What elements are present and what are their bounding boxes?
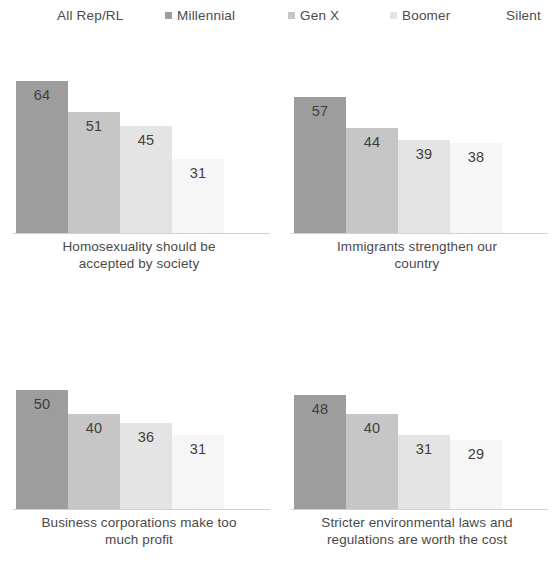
bar-value-label: 31 [398,441,450,457]
bar-value-label: 40 [68,420,120,436]
legend-item-gen-x: Gen X [288,8,339,23]
chart-panel-environmental-laws: 3748403129 Stricter environmental laws a… [278,322,556,563]
bar-value-label: 57 [294,103,346,119]
legend-label-all-rep-rl: All Rep/RL [57,8,124,23]
bar-value-label: 45 [120,132,172,148]
panel-caption-line2: country [395,256,440,271]
panel-caption-line2: much profit [105,532,173,547]
plot-area: 4457443938 [286,46,548,234]
legend-item-boomer: Boomer [390,8,450,23]
x-axis-line [13,509,270,510]
legend-swatch-icon-millennial [165,12,172,19]
plot-area: 3748403129 [286,322,548,510]
bar-value-label: 36 [120,429,172,445]
x-axis-line [13,233,270,234]
legend-swatch-icon-boomer [390,12,397,19]
panel-caption-line2: accepted by society [79,256,199,271]
bar-value-label: 64 [16,87,68,103]
bar-value-label: 38 [450,149,502,165]
legend-label-silent: Silent [506,8,541,23]
bar-value-label: 31 [172,441,224,457]
legend-label-millennial: Millennial [177,8,235,23]
panel-caption-line1: Homosexuality should be [62,239,215,254]
panel-caption: Homosexuality should be accepted by soci… [6,238,272,272]
chart-legend: All Rep/RL Millennial Gen X Boomer Silen… [0,4,556,26]
bar-value-label: 29 [450,446,502,462]
panel-caption: Business corporations make too much prof… [6,514,272,548]
legend-label-gen-x: Gen X [300,8,339,23]
x-axis-line [291,233,548,234]
bar-value-label: 40 [346,420,398,436]
legend-swatch-icon-gen-x [288,12,295,19]
panel-caption: Immigrants strengthen our country [284,238,550,272]
chart-panel-homosexuality: 4964514531 Homosexuality should be accep… [0,46,278,294]
bar-value-label: 48 [294,401,346,417]
legend-label-boomer: Boomer [402,8,450,23]
bar-value-label: 51 [68,118,120,134]
plot-area: 4050403631 [8,322,270,510]
panel-caption-line2: regulations are worth the cost [327,532,507,547]
legend-item-silent: Silent [506,8,541,23]
panel-caption: Stricter environmental laws and regulati… [284,514,550,548]
bar-value-label: 50 [16,396,68,412]
panel-caption-line1: Stricter environmental laws and [321,515,512,530]
panel-caption-line1: Business corporations make too [41,515,236,530]
plot-area: 4964514531 [8,46,270,234]
x-axis-line [291,509,548,510]
bar-millennial [16,81,68,233]
chart-panel-business-corporations: 4050403631 Business corporations make to… [0,322,278,563]
legend-item-millennial: Millennial [165,8,235,23]
panel-caption-line1: Immigrants strengthen our [337,239,497,254]
chart-panel-immigrants: 4457443938 Immigrants strengthen our cou… [278,46,556,294]
bar-value-label: 31 [172,165,224,181]
bar-value-label: 44 [346,134,398,150]
bar-value-label: 39 [398,146,450,162]
legend-item-all-rep-rl: All Rep/RL [57,8,124,23]
